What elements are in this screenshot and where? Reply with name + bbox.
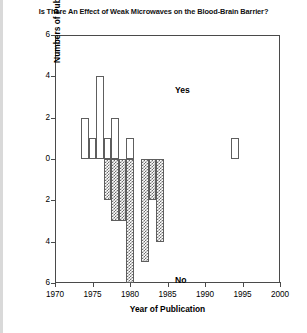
x-tick-mark-1990 [205, 282, 206, 287]
y-tick-label: 6 [45, 30, 50, 40]
y-tick-label: 2 [45, 113, 50, 123]
bar-yes-1976 [96, 76, 103, 159]
y-tick-label: 2 [45, 195, 50, 205]
x-tick-label-1995: 1995 [225, 290, 261, 300]
x-tick-mark-1995 [243, 282, 244, 287]
x-axis-title: Year of Publication [55, 304, 280, 314]
x-tick-mark-2000 [280, 282, 281, 287]
chart-page: Is There An Effect of Weak Microwaves on… [0, 0, 307, 333]
bar-no-1977 [104, 159, 111, 200]
bar-yes-1978 [111, 118, 118, 159]
bar-yes-1975 [89, 138, 96, 159]
x-tick-label-1980: 1980 [112, 290, 148, 300]
chart-title: Is There An Effect of Weak Microwaves on… [0, 7, 307, 16]
bar-no-1983 [149, 159, 156, 200]
y-tick-label: 4 [45, 71, 50, 81]
plot-right-border [279, 35, 280, 283]
scan-edge-artifact [0, 0, 3, 333]
y-tick-mark [51, 200, 55, 201]
x-tick-mark-1970 [55, 282, 56, 287]
bar-no-1982 [141, 159, 148, 262]
bar-yes-1974 [81, 118, 88, 159]
y-tick-mark [51, 159, 55, 160]
bar-no-1979 [119, 159, 126, 221]
y-tick-mark [51, 76, 55, 77]
bar-no-1984 [156, 159, 163, 242]
bar-yes-1994 [231, 138, 238, 159]
y-tick-mark [51, 118, 55, 119]
bar-yes-1977 [104, 138, 111, 159]
annotation-yes: Yes [175, 85, 190, 95]
y-tick-mark [51, 242, 55, 243]
x-tick-label-1975: 1975 [75, 290, 111, 300]
bar-no-1978 [111, 159, 118, 221]
x-tick-mark-1985 [168, 282, 169, 287]
bar-no-1980 [126, 159, 133, 283]
annotation-no: No [175, 275, 186, 285]
x-tick-label-1970: 1970 [37, 290, 73, 300]
y-axis-title: Numbers of Publications (Papers or Abstr… [52, 0, 62, 65]
x-tick-label-1990: 1990 [187, 290, 223, 300]
y-axis-line [55, 35, 56, 283]
bar-yes-1980 [126, 138, 133, 159]
x-tick-label-2000: 2000 [262, 290, 298, 300]
x-tick-mark-1975 [93, 282, 94, 287]
x-tick-label-1985: 1985 [150, 290, 186, 300]
y-tick-label: 6 [45, 278, 50, 288]
plot-top-border [55, 35, 280, 36]
plot-area: 6420246 1970197519801985199019952000 Yes… [55, 35, 280, 283]
y-tick-label: 4 [45, 237, 50, 247]
y-tick-label: 0 [45, 154, 50, 164]
